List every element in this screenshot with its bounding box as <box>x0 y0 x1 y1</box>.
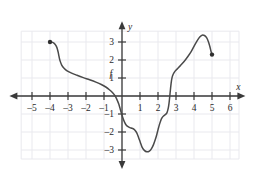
x-tick-label: –2 <box>80 103 91 113</box>
axes-group <box>9 21 245 169</box>
x-axis-arrow-right <box>237 93 245 100</box>
x-axis-arrow-left <box>9 93 17 100</box>
graph-figure: –5–4–3–2–1123456321–1–2–3 xy f <box>0 0 259 186</box>
x-tick-label: –4 <box>44 103 55 113</box>
curve-path-f <box>50 35 212 152</box>
curve-start-endpoint-dot <box>48 40 52 44</box>
axis-name-labels: xy <box>127 22 241 92</box>
x-tick-label: 4 <box>192 103 197 113</box>
y-axis-label: y <box>127 22 133 32</box>
y-tick-label: –3 <box>104 145 115 155</box>
x-tick-label: –5 <box>26 103 37 113</box>
y-tick-label: 3 <box>109 37 114 47</box>
y-tick-label: 2 <box>109 55 114 65</box>
coordinate-plane-svg: –5–4–3–2–1123456321–1–2–3 xy f <box>0 0 259 186</box>
y-tick-label: –2 <box>104 127 115 137</box>
y-axis-arrow-up <box>119 21 126 29</box>
function-curve <box>50 35 212 152</box>
x-tick-label: 6 <box>228 103 233 113</box>
grid-lines <box>21 31 239 159</box>
x-tick-label: 1 <box>138 103 143 113</box>
x-tick-label: 2 <box>156 103 161 113</box>
x-axis-label: x <box>235 82 241 92</box>
curve-end-endpoint-dot <box>210 52 214 56</box>
x-tick-label: 3 <box>174 103 179 113</box>
x-tick-label: 5 <box>210 103 215 113</box>
y-axis-arrow-down <box>119 161 126 169</box>
x-tick-label: –3 <box>62 103 73 113</box>
y-tick-label: –1 <box>104 109 115 119</box>
